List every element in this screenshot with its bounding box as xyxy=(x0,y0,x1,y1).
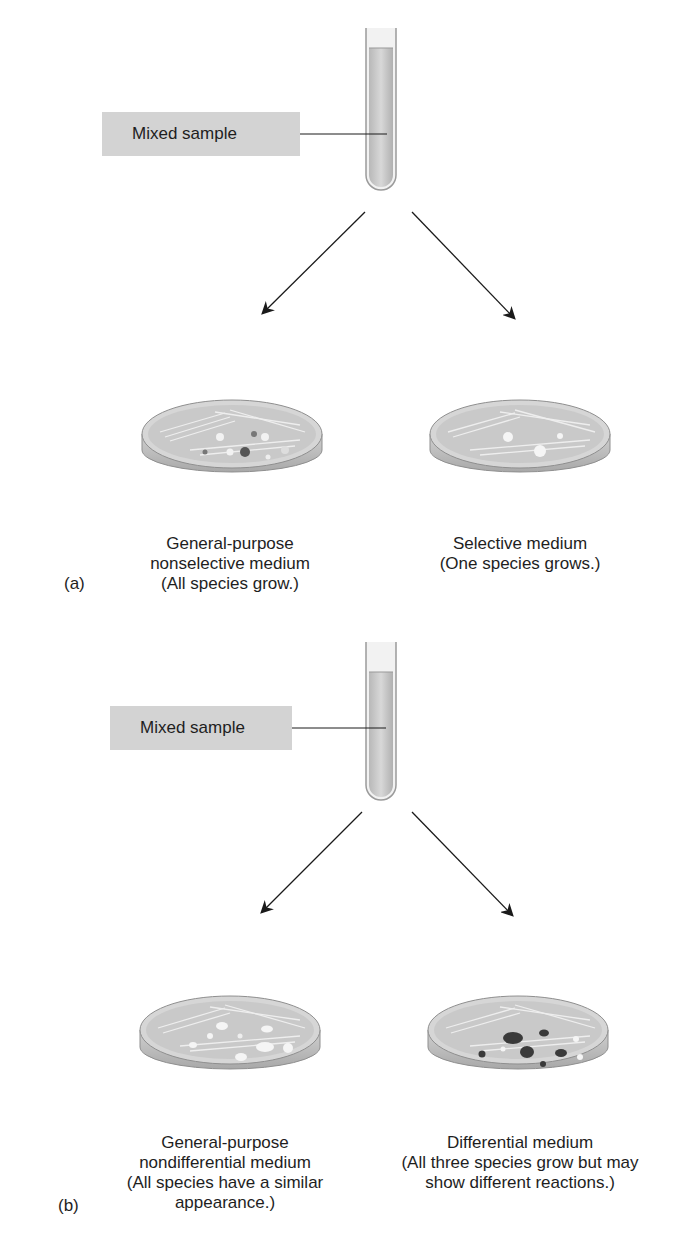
arrow-left-a xyxy=(263,212,365,313)
caption-line: show different reactions.) xyxy=(380,1173,660,1193)
caption-line: (All three species grow but may xyxy=(380,1153,660,1173)
panel-letter-a: (a) xyxy=(64,574,85,594)
arrow-right-b xyxy=(412,812,512,915)
caption-line: nonselective medium xyxy=(130,554,330,574)
caption-line: nondifferential medium xyxy=(100,1153,350,1173)
caption-line: (All species have a similar xyxy=(100,1173,350,1193)
test-tube-a xyxy=(366,28,396,190)
panel-letter-b: (b) xyxy=(58,1196,79,1216)
caption-line: (One species grows.) xyxy=(420,554,620,574)
arrow-right-a xyxy=(412,212,514,318)
caption-line: (All species grow.) xyxy=(130,574,330,594)
petri-dish-differential xyxy=(428,996,608,1069)
caption-nonselective: General-purpose nonselective medium (All… xyxy=(130,534,330,594)
caption-title: Differential medium xyxy=(380,1133,660,1153)
caption-differential: Differential medium (All three species g… xyxy=(380,1133,660,1193)
caption-nondifferential: General-purpose nondifferential medium (… xyxy=(100,1133,350,1213)
caption-line: appearance.) xyxy=(100,1193,350,1213)
mixed-sample-label-a: Mixed sample xyxy=(102,112,300,156)
mixed-sample-text-a: Mixed sample xyxy=(132,124,237,144)
diagram-graphics xyxy=(0,0,693,1243)
test-tube-b xyxy=(366,642,396,800)
petri-dish-nonselective xyxy=(142,400,322,472)
arrow-left-b xyxy=(262,812,362,912)
mixed-sample-label-b: Mixed sample xyxy=(110,706,292,750)
caption-title: Selective medium xyxy=(420,534,620,554)
mixed-sample-text-b: Mixed sample xyxy=(140,718,245,738)
caption-title: General-purpose xyxy=(130,534,330,554)
caption-title: General-purpose xyxy=(100,1133,350,1153)
petri-dish-selective xyxy=(430,400,610,472)
caption-selective: Selective medium (One species grows.) xyxy=(420,534,620,574)
petri-dish-nondifferential xyxy=(140,996,320,1069)
